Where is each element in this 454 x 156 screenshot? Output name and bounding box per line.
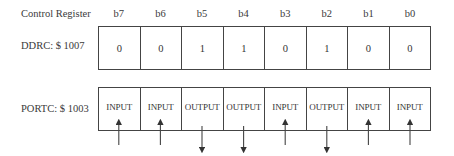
bit-header-b7: b7 xyxy=(98,8,140,19)
ddrc-bit-3: 0 xyxy=(265,27,307,69)
portc-bit-6: INPUT xyxy=(141,88,183,130)
bit-header-b1: b1 xyxy=(348,8,390,19)
bit-header-b3: b3 xyxy=(264,8,306,19)
control-register-label: Control Register xyxy=(21,8,91,19)
bit-header-b5: b5 xyxy=(181,8,223,19)
ddrc-bit-6: 0 xyxy=(141,27,183,69)
bit-header-b2: b2 xyxy=(306,8,348,19)
bit-header-b4: b4 xyxy=(223,8,265,19)
ddrc-register: 0 0 1 1 0 1 0 0 xyxy=(98,26,431,70)
portc-bit-7: INPUT xyxy=(99,88,141,130)
ddrc-bit-5: 1 xyxy=(182,27,224,69)
ddrc-bit-0: 0 xyxy=(390,27,431,69)
direction-arrows xyxy=(98,0,431,156)
ddrc-bit-4: 1 xyxy=(224,27,266,69)
portc-bit-2: OUTPUT xyxy=(307,88,349,130)
ddrc-bit-1: 0 xyxy=(348,27,390,69)
portc-register: INPUT INPUT OUTPUT OUTPUT INPUT OUTPUT I… xyxy=(98,87,431,131)
ddrc-bit-2: 1 xyxy=(307,27,349,69)
ddrc-bit-7: 0 xyxy=(99,27,141,69)
portc-bit-4: OUTPUT xyxy=(224,88,266,130)
ddrc-label: DDRC: $ 1007 xyxy=(21,40,85,51)
portc-bit-0: INPUT xyxy=(390,88,431,130)
bit-header-b6: b6 xyxy=(140,8,182,19)
portc-bit-1: INPUT xyxy=(348,88,390,130)
portc-label: PORTC: $ 1003 xyxy=(21,103,89,114)
portc-bit-5: OUTPUT xyxy=(182,88,224,130)
portc-bit-3: INPUT xyxy=(265,88,307,130)
bit-header-b0: b0 xyxy=(389,8,431,19)
